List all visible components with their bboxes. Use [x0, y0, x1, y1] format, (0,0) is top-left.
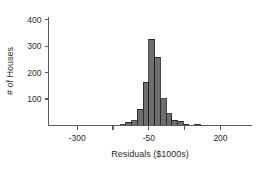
y-tick-label: 300	[27, 41, 41, 51]
y-axis-title: # of Houses	[5, 46, 15, 95]
x-axis-ticks: -300-50200	[69, 126, 228, 143]
histogram-figure: 100200300400 -300-50200 # of Houses Resi…	[0, 0, 263, 171]
x-axis-title: Residuals ($1000s)	[111, 149, 189, 159]
x-tick-label: -300	[69, 133, 86, 143]
histogram-bars	[120, 39, 200, 125]
histogram-bar	[137, 109, 143, 125]
y-tick-label: 100	[27, 94, 41, 104]
y-tick-label: 200	[27, 68, 41, 78]
x-tick-label: 200	[213, 133, 227, 143]
histogram-bar	[172, 120, 178, 125]
y-axis-ticks: 100200300400	[27, 15, 48, 104]
histogram-bar	[166, 114, 172, 126]
residuals-histogram: 100200300400 -300-50200 # of Houses Resi…	[0, 0, 263, 171]
histogram-bar	[149, 39, 155, 125]
histogram-bar	[160, 99, 166, 126]
x-tick-label: -50	[143, 133, 156, 143]
histogram-bar	[155, 57, 161, 125]
histogram-bar	[132, 121, 138, 126]
y-tick-label: 400	[27, 15, 41, 25]
histogram-bar	[143, 82, 149, 125]
